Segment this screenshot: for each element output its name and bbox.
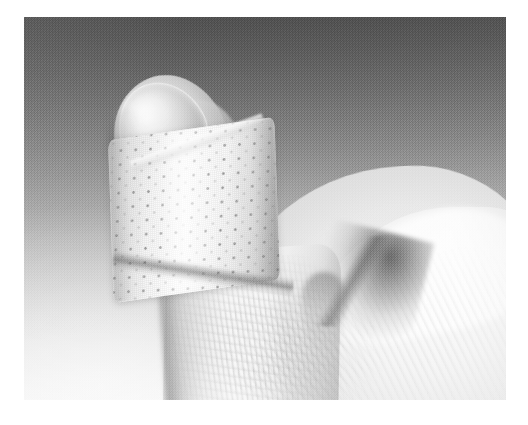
photograph [24,17,506,400]
bandage-right-shading [227,117,280,286]
screenshot-canvas: human hand with an index finger wrapped … [0,0,528,425]
